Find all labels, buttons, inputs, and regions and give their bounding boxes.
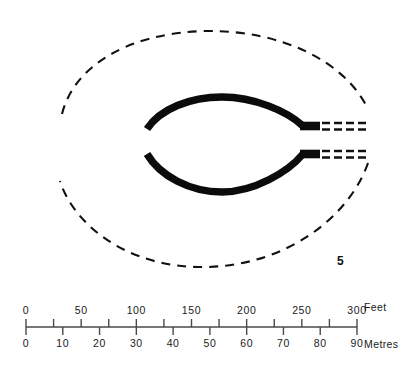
scalebar-feet-tick-label: 250 [292,304,311,316]
scalebar-metres-tick-label: 30 [130,337,143,349]
scalebar-feet-tick-label: 150 [182,304,201,316]
scalebar-metres-tick-label: 40 [167,337,180,349]
plan-drawing: 5 050100150200250300 0102030405060708090… [0,0,418,365]
figure-number: 5 [337,254,344,268]
scalebar-feet-unit-label: Feet [364,301,387,313]
scalebar-feet-tick-label: 200 [237,304,256,316]
scalebar-metres-tick-label: 60 [240,337,253,349]
scalebar-metres-tick-label: 80 [314,337,327,349]
scalebar-metres-tick-label: 90 [351,337,364,349]
scalebar-metres-tick-label: 70 [277,337,290,349]
scalebar-feet-tick-label: 100 [127,304,146,316]
scalebar-metres-tick-label: 20 [93,337,106,349]
figure-canvas: 5 050100150200250300 0102030405060708090… [0,0,418,365]
scalebar-metres-tick-label: 50 [203,337,216,349]
scalebar-metres-tick-label: 0 [23,337,29,349]
scalebar-metres-unit-label: Metres [364,338,399,350]
scalebar-feet-tick-label: 50 [75,304,88,316]
scalebar-metres-tick-label: 10 [56,337,69,349]
scalebar-feet-tick-label: 0 [23,304,29,316]
